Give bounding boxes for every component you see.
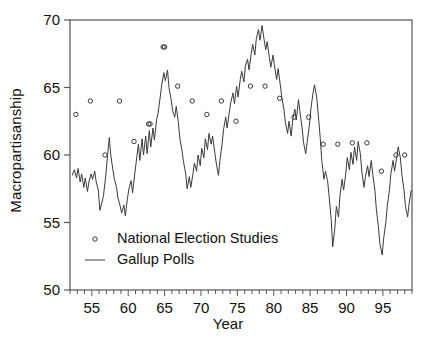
- series-point-national-election-studies: [205, 112, 209, 116]
- series-point-national-election-studies: [88, 99, 92, 103]
- x-tick-label: 80: [265, 299, 282, 316]
- series-point-national-election-studies: [248, 84, 252, 88]
- x-tick-label: 65: [156, 299, 173, 316]
- plot-area: 5560657075808590955055606570National Ele…: [0, 0, 432, 346]
- x-tick-label: 90: [338, 299, 355, 316]
- x-tick-label: 60: [120, 299, 137, 316]
- y-tick-label: 65: [43, 79, 60, 96]
- y-tick-label: 55: [43, 214, 60, 231]
- chart-figure: Macropartisanship 5560657075808590955055…: [0, 0, 432, 346]
- series-point-national-election-studies: [350, 141, 354, 145]
- legend-marker-circle: [93, 237, 97, 241]
- series-point-national-election-studies: [336, 142, 340, 146]
- series-point-national-election-studies: [403, 153, 407, 157]
- series-point-national-election-studies: [103, 153, 107, 157]
- x-tick-label: 95: [375, 299, 392, 316]
- chart-svg: 5560657075808590955055606570National Ele…: [0, 0, 432, 346]
- series-point-national-election-studies: [365, 141, 369, 145]
- x-axis-label: Year: [0, 315, 432, 332]
- x-tick-label: 75: [229, 299, 246, 316]
- series-point-national-election-studies: [263, 84, 267, 88]
- series-point-national-election-studies: [74, 112, 78, 116]
- x-tick-label: 70: [193, 299, 210, 316]
- y-tick-label: 60: [43, 146, 60, 163]
- x-tick-label: 55: [83, 299, 100, 316]
- legend-label: Gallup Polls: [117, 251, 194, 267]
- series-point-national-election-studies: [277, 96, 281, 100]
- series-point-national-election-studies: [234, 119, 238, 123]
- x-tick-label: 85: [302, 299, 319, 316]
- series-point-national-election-studies: [219, 99, 223, 103]
- y-tick-label: 70: [43, 11, 60, 28]
- series-point-national-election-studies: [117, 99, 121, 103]
- series-point-national-election-studies: [190, 99, 194, 103]
- series-point-national-election-studies: [321, 142, 325, 146]
- y-tick-label: 50: [43, 281, 60, 298]
- series-point-national-election-studies: [379, 169, 383, 173]
- legend-label: National Election Studies: [117, 230, 278, 246]
- series-point-national-election-studies: [175, 84, 179, 88]
- series-point-national-election-studies: [132, 139, 136, 143]
- series-line-gallup-polls: [72, 25, 411, 255]
